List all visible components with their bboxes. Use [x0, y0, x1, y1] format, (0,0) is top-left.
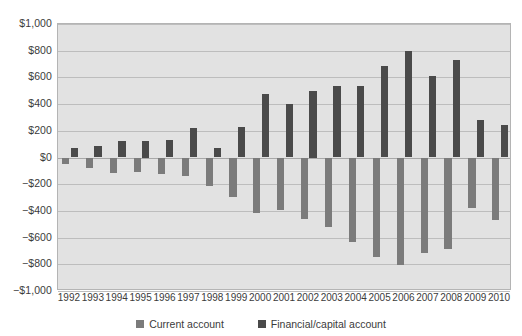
x-axis-tick-label: 2008 [440, 292, 462, 303]
plot-area [57, 23, 511, 290]
bar [134, 158, 141, 173]
bar [405, 51, 412, 158]
bar [94, 146, 101, 158]
bar [444, 158, 451, 250]
bar [421, 158, 428, 254]
x-axis-tick-label: 1997 [177, 292, 199, 303]
bar [301, 158, 308, 219]
chart-legend: Current accountFinancial/capital account [0, 314, 522, 334]
legend-item[interactable]: Current account [136, 318, 224, 330]
x-axis-tick-label: 2010 [488, 292, 510, 303]
bar [214, 148, 221, 158]
bar [286, 104, 293, 157]
bar [71, 148, 78, 157]
bar [492, 158, 499, 221]
bar [468, 158, 475, 208]
bar [190, 128, 197, 158]
x-axis-tick-label: 2002 [297, 292, 319, 303]
bar [309, 91, 316, 158]
y-axis-tick-label: $400 [28, 97, 52, 109]
x-axis-tick-label: 2004 [345, 292, 367, 303]
y-axis-tick-label: $0 [40, 151, 52, 163]
bar [166, 140, 173, 157]
x-axis-tick-label: 1992 [58, 292, 80, 303]
x-axis-tick-label: 1999 [225, 292, 247, 303]
y-axis-tick-label: −$400 [22, 204, 52, 216]
bar [182, 158, 189, 176]
legend-swatch-icon [136, 320, 144, 328]
bar [229, 158, 236, 198]
bar [118, 141, 125, 157]
bar [453, 60, 460, 158]
legend-swatch-icon [258, 320, 266, 328]
legend-item[interactable]: Financial/capital account [258, 318, 386, 330]
balance-of-payments-chart: $1,000$800$600$400$200$0−$200−$400−$600−… [0, 0, 522, 336]
x-axis-tick-label: 2003 [321, 292, 343, 303]
bar [349, 158, 356, 242]
legend-label: Financial/capital account [271, 318, 386, 330]
x-axis-tick-label: 2001 [273, 292, 295, 303]
bar [333, 86, 340, 157]
bar [158, 158, 165, 174]
bar [277, 158, 284, 211]
x-axis-tick-label: 2009 [464, 292, 486, 303]
x-axis-tick-label: 2006 [392, 292, 414, 303]
y-axis-tick-label: −$1,000 [13, 284, 52, 296]
bar [381, 66, 388, 157]
y-axis-tick-label: $800 [28, 44, 52, 56]
y-axis-tick-label: −$200 [22, 177, 52, 189]
y-axis-tick-label: $200 [28, 124, 52, 136]
bar [429, 76, 436, 158]
x-axis-tick-label: 2005 [368, 292, 390, 303]
x-axis-tick-label: 1996 [153, 292, 175, 303]
bar [142, 141, 149, 158]
legend-label: Current account [149, 318, 224, 330]
bar [357, 86, 364, 157]
y-axis-tick-label: −$600 [22, 231, 52, 243]
x-axis-tick-label: 1998 [201, 292, 223, 303]
y-axis-tick-label: $1,000 [19, 17, 52, 29]
x-axis: 1992199319941995199619971998199920002001… [57, 292, 511, 308]
x-axis-tick-label: 2007 [416, 292, 438, 303]
y-axis-tick-label: $600 [28, 70, 52, 82]
bar [206, 158, 213, 186]
bar [477, 120, 484, 158]
y-axis: $1,000$800$600$400$200$0−$200−$400−$600−… [0, 23, 52, 290]
bars-layer [58, 24, 510, 289]
bar [253, 158, 260, 214]
bar [397, 158, 404, 266]
x-axis-tick-label: 1993 [82, 292, 104, 303]
x-axis-tick-label: 1995 [130, 292, 152, 303]
bar [238, 127, 245, 157]
bar [373, 158, 380, 258]
x-axis-tick-label: 1994 [106, 292, 128, 303]
x-axis-tick-label: 2000 [249, 292, 271, 303]
bar [86, 158, 93, 169]
bar [262, 94, 269, 158]
bar [325, 158, 332, 228]
bar [501, 125, 508, 157]
bar [62, 158, 69, 165]
y-axis-tick-label: −$800 [22, 257, 52, 269]
bar [110, 158, 117, 174]
